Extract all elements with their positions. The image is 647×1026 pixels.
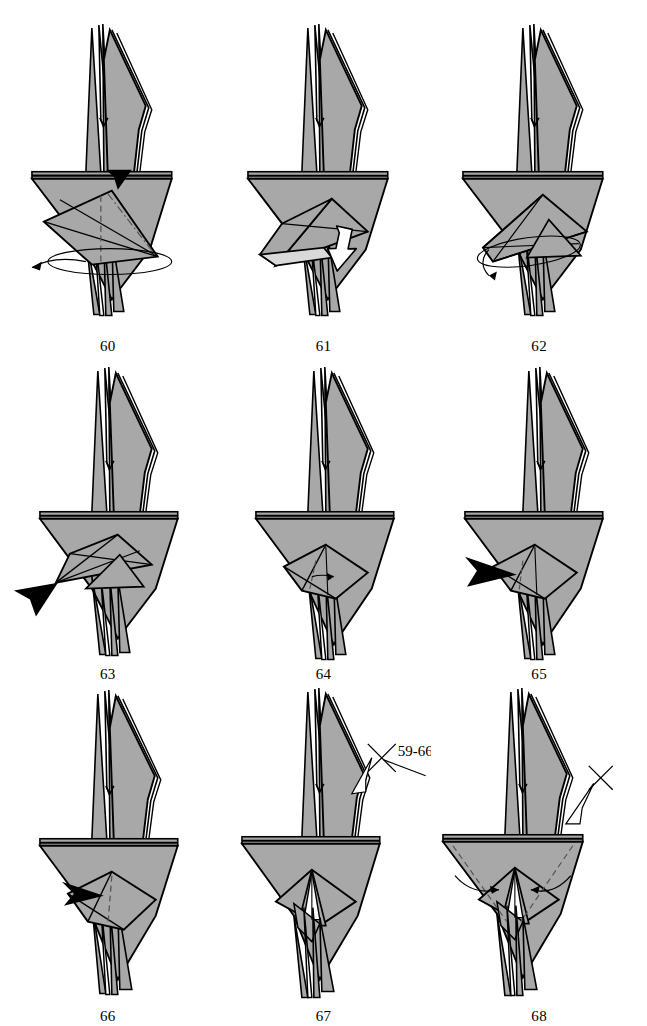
model-67 [242, 688, 380, 998]
figure-60 [0, 0, 216, 339]
figure-64-svg [216, 355, 432, 667]
rotate-arrow-head-icon [489, 272, 497, 281]
diagram-page: 60 [0, 0, 647, 1026]
diagram-cell-63: 63 [0, 355, 216, 680]
diagram-cell-62: 62 [431, 0, 647, 355]
step-number-68: 68 [531, 1009, 547, 1026]
diagram-cell-68: 68 [431, 680, 647, 1026]
diagram-cell-65: 65 [431, 355, 647, 680]
repeat-leader-line [383, 760, 425, 776]
figure-62 [431, 0, 647, 339]
diagram-cell-67: 59-66 67 [216, 680, 432, 1026]
diagram-cell-60: 60 [0, 0, 216, 355]
repeat-cross-icon [367, 744, 395, 772]
diagram-cell-64: 64 [216, 355, 432, 680]
push-in-arrowhead-icon [14, 583, 58, 617]
figure-67-svg: 59-66 [216, 680, 432, 1009]
figure-63-svg [0, 355, 216, 667]
figure-64 [216, 355, 432, 667]
figure-66-svg [0, 680, 216, 1009]
model-62 [463, 24, 603, 316]
model-68 [443, 688, 583, 996]
diagram-cell-61: 61 [216, 0, 432, 355]
figure-63 [0, 355, 216, 667]
model-65 [465, 367, 603, 660]
model-63 [40, 367, 178, 656]
figure-61-svg [216, 0, 432, 339]
step-number-66: 66 [100, 1009, 116, 1026]
model-66 [40, 690, 178, 995]
figure-67: 59-66 [216, 680, 432, 1009]
diagram-cell-66: 66 [0, 680, 216, 1026]
figure-60-svg [0, 0, 216, 339]
figure-68 [431, 680, 647, 1009]
figure-66 [0, 680, 216, 1009]
figure-62-svg [431, 0, 647, 339]
diagram-grid: 60 [0, 0, 647, 1026]
model-64 [256, 367, 394, 660]
figure-65 [431, 355, 647, 667]
step-number-67: 67 [316, 1009, 332, 1026]
rotate-arrow-head-icon [32, 262, 42, 271]
repeat-steps-label: 59-66 [397, 743, 431, 759]
figure-68-svg [431, 680, 647, 1009]
figure-61 [216, 0, 432, 339]
figure-65-svg [431, 355, 647, 667]
model-61 [248, 24, 388, 316]
